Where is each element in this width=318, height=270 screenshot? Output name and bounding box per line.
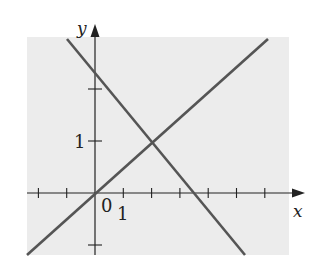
plot-background (27, 37, 289, 255)
y-axis-arrow-icon (91, 24, 100, 37)
x-axis-arrow-icon (292, 189, 305, 198)
x-tick-label-1: 1 (117, 203, 128, 224)
y-tick-label-1: 1 (74, 131, 85, 152)
graph-figure: y x 1 0 1 (0, 0, 318, 270)
x-axis-label: x (293, 201, 303, 221)
origin-label: 0 (101, 195, 112, 216)
y-axis-label: y (76, 18, 87, 38)
